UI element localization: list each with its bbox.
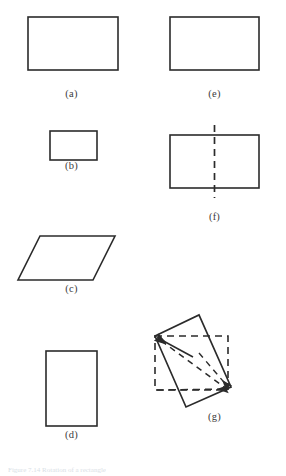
panel-caption-g: (g) <box>143 411 286 422</box>
figure-panel-e: (e) <box>143 10 286 105</box>
panel-caption-d: (d) <box>0 429 143 440</box>
rectangle-outline <box>170 17 259 70</box>
rectangle-outline <box>46 351 97 426</box>
figure-panel-f: (f) <box>143 119 286 231</box>
figure-panel-d: (d) <box>0 345 143 455</box>
panel-caption-e: (e) <box>143 88 286 99</box>
panel-caption-a: (a) <box>0 88 143 99</box>
bottom-figure-caption: Figure 7.14 Rotation of a rectangle <box>8 466 208 475</box>
figure-grid: (a) (b) (c) (d) (e) (f) <box>0 0 286 476</box>
shape-parallelogram-c <box>0 229 143 311</box>
rectangle-outline <box>50 131 97 160</box>
rectangle-outline <box>28 17 118 70</box>
panel-caption-b: (b) <box>0 160 143 171</box>
panel-caption-f: (f) <box>143 211 286 222</box>
panel-caption-c: (c) <box>0 283 143 294</box>
figure-panel-c: (c) <box>0 229 143 311</box>
figure-panel-g: (g) <box>143 313 286 433</box>
parallelogram-outline <box>18 236 115 280</box>
figure-panel-a: (a) <box>0 10 143 105</box>
figure-panel-b: (b) <box>0 124 143 198</box>
rotated-quadrilateral-outline <box>155 315 231 407</box>
